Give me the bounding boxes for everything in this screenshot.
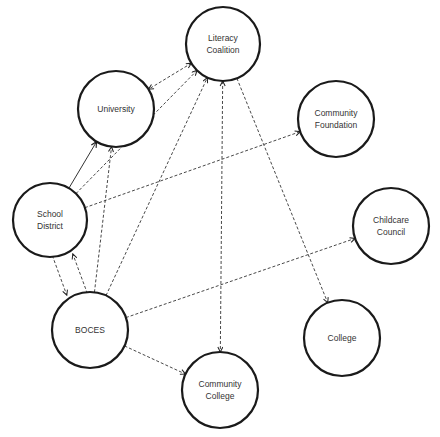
- node-label: School: [37, 209, 63, 219]
- nodes-layer: LiteracyCoalitionUniversityCommunityFoun…: [13, 7, 429, 428]
- node-circle: [13, 183, 87, 257]
- node-boces: BOCES: [52, 292, 128, 368]
- network-diagram: LiteracyCoalitionUniversityCommunityFoun…: [0, 0, 440, 437]
- node-label: College: [328, 333, 357, 343]
- node-childcare: ChildcareCouncil: [353, 188, 429, 264]
- node-label: College: [206, 391, 235, 401]
- node-label: Council: [377, 227, 405, 237]
- node-label: BOCES: [75, 325, 105, 335]
- node-university: University: [78, 71, 154, 147]
- node-college: College: [304, 300, 380, 376]
- node-label: Community: [315, 108, 359, 118]
- edge-literacy-to-ccollege: [220, 81, 222, 352]
- edge-literacy-to-university: [148, 63, 191, 89]
- node-circle: [182, 352, 258, 428]
- node-circle: [186, 7, 260, 81]
- node-label: Community: [199, 379, 243, 389]
- node-label: Foundation: [315, 120, 358, 130]
- node-label: Literacy: [208, 33, 239, 43]
- edge-boces-to-ccollege: [125, 346, 186, 374]
- node-label: University: [97, 104, 135, 114]
- node-ccollege: CommunityCollege: [182, 352, 258, 428]
- node-school: SchoolDistrict: [13, 183, 87, 257]
- node-circle: [298, 81, 374, 157]
- node-label: Coalition: [206, 45, 239, 55]
- node-label: Childcare: [373, 215, 409, 225]
- edge-boces-to-university: [94, 147, 111, 293]
- edge-school-to-boces: [52, 256, 66, 296]
- node-circle: [353, 188, 429, 264]
- edge-school-to-university: [69, 142, 97, 189]
- node-foundation: CommunityFoundation: [298, 81, 374, 157]
- node-literacy: LiteracyCoalition: [186, 7, 260, 81]
- node-label: District: [37, 221, 64, 231]
- edge-boces-to-school: [73, 254, 88, 294]
